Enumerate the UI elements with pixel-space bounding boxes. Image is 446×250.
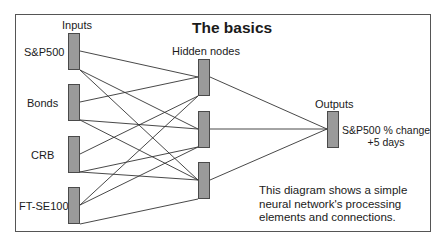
diagram-caption: This diagram shows a simple neural netwo… xyxy=(259,184,429,225)
hidden-node-1 xyxy=(198,59,210,96)
input-label-sp500: S&P500 xyxy=(24,46,64,59)
diagram-title: The basics xyxy=(192,19,272,37)
input-node-sp500 xyxy=(68,33,80,70)
input-node-crb xyxy=(68,136,80,173)
outputs-label: Outputs xyxy=(315,98,354,111)
output-description: S&P500 % change +5 days xyxy=(342,124,430,148)
output-node xyxy=(327,111,339,148)
caption-line-2: neural network's processing xyxy=(259,198,429,212)
input-label-ftse100: FT-SE100 xyxy=(19,200,69,213)
caption-line-1: This diagram shows a simple xyxy=(259,184,429,198)
hidden-nodes-label: Hidden nodes xyxy=(172,45,240,58)
hidden-node-3 xyxy=(198,162,210,199)
output-line-1: S&P500 % change xyxy=(342,124,430,136)
hidden-node-2 xyxy=(198,111,210,148)
inputs-label: Inputs xyxy=(62,19,92,32)
input-node-ftse100 xyxy=(68,187,80,224)
output-line-2: +5 days xyxy=(342,136,430,148)
input-label-crb: CRB xyxy=(31,149,54,162)
caption-line-3: elements and connections. xyxy=(259,211,429,225)
input-label-bonds: Bonds xyxy=(27,97,58,110)
input-node-bonds xyxy=(68,84,80,121)
